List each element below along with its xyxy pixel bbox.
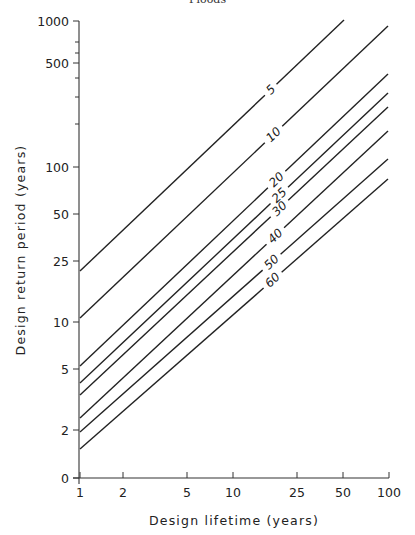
y-tick-label: 0 (61, 471, 69, 486)
curve-label: 50 (261, 252, 282, 273)
x-tick-label: 1 (76, 485, 84, 500)
curve-line (284, 131, 388, 228)
curve-30: 30 (80, 107, 388, 395)
y-tick-label: 100 (45, 160, 69, 175)
curve-line (282, 179, 388, 272)
x-axis-title: Design lifetime (years) (149, 513, 319, 528)
curve-line (281, 159, 388, 254)
x-tick-label: 2 (119, 485, 127, 500)
y-tick-label: 1000 (37, 14, 69, 29)
y-tick-label: 50 (53, 207, 69, 222)
x-tick-label: 50 (335, 485, 351, 500)
curve-label: 10 (263, 124, 284, 145)
curve-label: 5 (263, 82, 278, 97)
y-tick-label: 10 (53, 315, 69, 330)
curve-line (80, 244, 267, 418)
curve-line (285, 74, 388, 171)
curve-label: 30 (269, 198, 290, 219)
curve-line (80, 270, 263, 432)
y-tick-label: 25 (53, 254, 69, 269)
x-tick-label: 25 (289, 485, 305, 500)
curve-line (80, 95, 265, 271)
x-tick-label: 5 (183, 485, 191, 500)
y-tick-label: 2 (61, 423, 69, 438)
curve-line (80, 188, 268, 366)
chart: 0251025501005001000125102550100 51020253… (0, 0, 415, 535)
curve-25: 25 (80, 93, 388, 383)
curve-line (80, 204, 271, 383)
y-tick-label: 5 (61, 362, 69, 377)
curve-line (277, 20, 344, 84)
curve-line (80, 143, 265, 318)
x-tick-label: 10 (225, 485, 241, 500)
curve-label: 40 (265, 225, 286, 246)
curve-line (282, 26, 388, 126)
chart-axes: 0251025501005001000125102550100 (37, 14, 401, 501)
chart-curves: 510202530405060 (80, 20, 388, 449)
curve-label: 60 (262, 270, 283, 291)
curve-50: 50 (80, 159, 388, 432)
y-axis-title: Design return period (years) (13, 145, 28, 356)
y-tick-label: 500 (45, 56, 69, 71)
x-tick-label: 100 (377, 485, 401, 500)
